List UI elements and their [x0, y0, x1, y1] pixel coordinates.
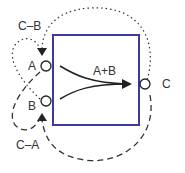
feedback-loop-c-minus-a: [42, 95, 151, 161]
label-port-a: A: [28, 59, 36, 73]
diagram: A+B C–B C–A A B C: [0, 0, 185, 173]
flow-b: [60, 84, 128, 99]
port-c: [140, 79, 150, 89]
label-port-c: C: [162, 77, 171, 91]
label-c-minus-b: C–B: [18, 19, 41, 33]
arrowhead-to-a: [37, 48, 47, 56]
label-c-minus-a: C–A: [16, 138, 39, 152]
arrowhead-sum: [122, 79, 132, 89]
port-a: [41, 61, 51, 71]
label-sum: A+B: [93, 64, 116, 78]
port-b: [41, 96, 51, 106]
label-port-b: B: [28, 99, 36, 113]
